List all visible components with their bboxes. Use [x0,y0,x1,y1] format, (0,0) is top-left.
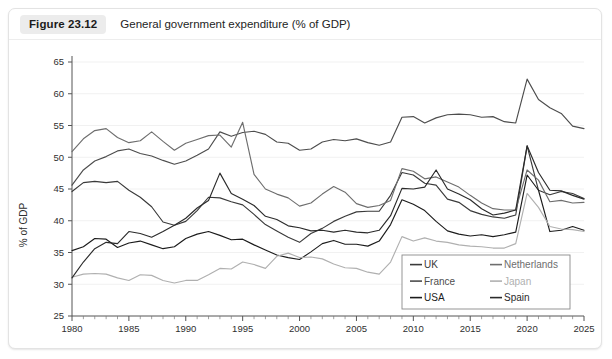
x-tick-label: 2020 [517,323,538,334]
gridlines [72,62,584,284]
series-line-uk [72,146,584,243]
x-tick-label: 1995 [232,323,253,334]
y-axis: 253035404550556065 [53,56,72,321]
figure-card: Figure 23.12 General government expendit… [8,8,602,349]
series-line-netherlands [72,122,584,210]
x-axis: 1980198519901995200020052010201520202025 [61,316,594,334]
y-tick-label: 45 [53,183,64,194]
chart-legend: UKNetherlandsFranceJapanUSASpain [402,255,570,309]
line-chart: 253035404550556065 198019851990199520002… [9,40,603,349]
y-tick-label: 65 [53,56,64,67]
y-tick-label: 35 [53,247,64,258]
x-tick-label: 1980 [61,323,82,334]
x-tick-label: 2025 [573,323,594,334]
y-tick-label: 50 [53,152,64,163]
legend-label-usa: USA [424,292,445,303]
legend-label-netherlands: Netherlands [504,259,558,270]
figure-number-badge: Figure 23.12 [20,15,106,34]
figure-caption: General government expenditure (% of GDP… [120,18,350,30]
x-tick-label: 1985 [118,323,139,334]
chart-plot-area: 253035404550556065 198019851990199520002… [9,40,603,349]
y-tick-label: 40 [53,215,64,226]
figure-header: Figure 23.12 General government expendit… [9,9,601,40]
y-axis-title: % of GDP [18,202,29,247]
x-tick-label: 2000 [289,323,310,334]
legend-label-france: France [424,276,456,287]
x-tick-label: 2005 [346,323,367,334]
y-tick-label: 30 [53,279,64,290]
legend-label-japan: Japan [504,276,531,287]
legend-label-spain: Spain [504,292,530,303]
y-tick-label: 25 [53,310,64,321]
y-tick-label: 55 [53,120,64,131]
y-tick-label: 60 [53,88,64,99]
series-line-france [72,79,584,185]
x-tick-label: 2010 [403,323,424,334]
x-tick-label: 1990 [175,323,196,334]
x-tick-label: 2015 [460,323,481,334]
legend-label-uk: UK [424,259,438,270]
